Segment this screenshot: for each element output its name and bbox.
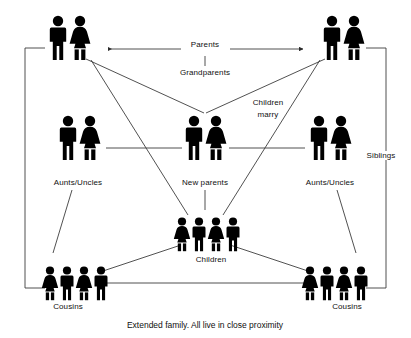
node-cousins-right [302, 266, 368, 300]
node-label-aunts-uncles-right: Aunts/Uncles [306, 178, 354, 188]
node-label-new-parents: New parents [182, 178, 228, 188]
node-grandparents-left [50, 16, 91, 60]
edge-label-siblings: Siblings [365, 151, 398, 161]
edge-aunts-left-to-cousins-left [53, 190, 72, 253]
edge-label-grandparents: Grandparents [178, 68, 232, 78]
node-cousins-left [42, 266, 108, 300]
node-label-aunts-uncles-left: Aunts/Uncles [54, 178, 102, 188]
node-aunts-uncles-right [311, 116, 352, 160]
node-label-cousins-left: Cousins [53, 302, 83, 312]
node-aunts-uncles-left [60, 116, 101, 160]
bracket-left [25, 48, 45, 288]
node-new-parents [186, 116, 227, 160]
edge-aunts-right-to-cousins-right [337, 190, 356, 253]
edge-children-to-cousins-left [100, 245, 181, 272]
node-grandparents-right [324, 16, 365, 60]
node-children [174, 217, 240, 251]
node-label-children: Children [194, 255, 229, 265]
connector-lines [25, 48, 386, 288]
edge-label-parents: Parents [189, 40, 221, 50]
family-diagram: Parents Grandparents Children marry Sibl… [0, 0, 411, 338]
diagram-caption: Extended family. All live in close proxi… [127, 320, 283, 330]
diagram-canvas [0, 0, 411, 338]
edge-label-children-marry-line-2: marry [256, 110, 281, 120]
bracket-right [366, 48, 386, 288]
node-label-cousins-right: Cousins [332, 302, 362, 312]
edge-label-children-marry-line-1: Children [251, 98, 286, 108]
edge-children-to-cousins-right [230, 245, 311, 272]
